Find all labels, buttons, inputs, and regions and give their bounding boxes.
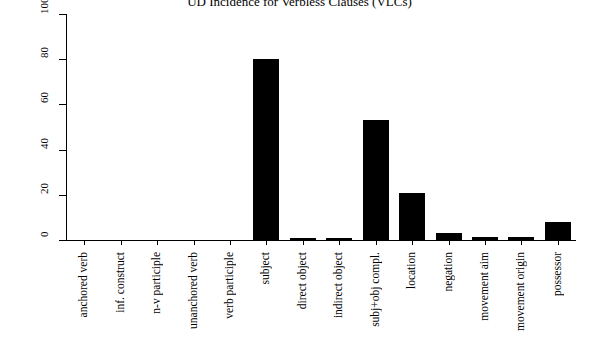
x-axis-category-label: subject	[259, 252, 271, 285]
bar	[472, 237, 498, 240]
x-axis-category-label: direct object	[296, 252, 308, 309]
x-axis-tick	[558, 241, 559, 245]
x-axis-category-label: inf. construct	[114, 252, 126, 313]
x-axis-category-label: location	[405, 252, 417, 289]
y-axis-tick-label: 80	[32, 47, 56, 59]
y-axis-tick	[59, 150, 66, 151]
x-axis-tick	[376, 241, 377, 245]
bar	[326, 238, 352, 240]
x-axis-category-label: negation	[442, 252, 454, 292]
x-axis-tick	[84, 241, 85, 245]
x-axis-category-label: verb participle	[223, 252, 235, 319]
x-axis-tick	[521, 241, 522, 245]
x-axis-category-label: indirect object	[332, 252, 344, 318]
bar	[253, 59, 279, 240]
x-axis-tick	[339, 241, 340, 245]
x-axis-tick	[303, 241, 304, 245]
x-axis-tick	[412, 241, 413, 245]
y-axis-tick-label: 100	[32, 2, 56, 14]
x-axis-category-label: movement aim	[478, 252, 490, 321]
bar	[290, 238, 316, 240]
y-axis-tick-label: 20	[32, 183, 56, 195]
y-axis-tick-label: 60	[32, 92, 56, 104]
y-axis-tick	[59, 195, 66, 196]
x-axis-tick	[194, 241, 195, 245]
y-axis-tick	[59, 14, 66, 15]
y-axis-tick	[59, 104, 66, 105]
x-axis-tick	[157, 241, 158, 245]
y-axis-tick	[59, 59, 66, 60]
x-axis-tick	[230, 241, 231, 245]
x-axis-tick	[449, 241, 450, 245]
bar	[399, 193, 425, 240]
chart-container: UD Incidence for Verbless Clauses (VLCs)…	[0, 0, 599, 358]
x-axis-category-label: anchored verb	[77, 252, 89, 317]
x-axis-tick	[266, 241, 267, 245]
plot-area	[66, 14, 576, 240]
x-axis-line	[66, 240, 576, 241]
x-axis-tick	[121, 241, 122, 245]
bar	[363, 120, 389, 240]
bar	[545, 222, 571, 240]
chart-title: UD Incidence for Verbless Clauses (VLCs)	[0, 0, 599, 10]
bar	[436, 233, 462, 240]
y-axis-tick-label: 0	[32, 228, 56, 240]
x-axis-category-label: unanchored verb	[187, 252, 199, 329]
x-axis-category-label: subj+obj compl.	[369, 252, 381, 327]
x-axis-category-label: movement origin	[514, 252, 526, 331]
x-axis-category-label: n-v participle	[150, 252, 162, 314]
y-axis-tick-label: 40	[32, 138, 56, 150]
y-axis-tick	[59, 240, 66, 241]
bar	[508, 237, 534, 240]
x-axis-category-label: possessor	[551, 252, 563, 296]
x-axis-tick	[485, 241, 486, 245]
